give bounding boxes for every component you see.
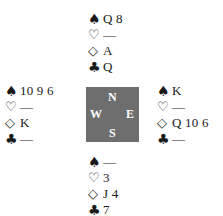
- south-hearts-cards: 3: [103, 170, 110, 186]
- south-spades-cards: —: [103, 154, 116, 170]
- west-hearts-row: ♡ —: [5, 99, 54, 115]
- heart-icon: ♡: [88, 27, 103, 43]
- east-clubs-cards: —: [172, 131, 185, 147]
- club-icon: ♣: [5, 131, 20, 147]
- north-hand: ♠ Q 8 ♡ — ◇ A ♣ Q: [88, 11, 123, 75]
- south-diamonds-cards: J 4: [103, 186, 118, 202]
- east-hearts-cards: —: [172, 99, 185, 115]
- heart-icon: ♡: [157, 99, 172, 115]
- north-diamonds-cards: A: [103, 43, 113, 59]
- south-hand: ♠ — ♡ 3 ◇ J 4 ♣ 7: [88, 154, 118, 216]
- west-clubs-row: ♣ —: [5, 131, 54, 147]
- compass-box: N W E S: [86, 87, 139, 142]
- west-hearts-cards: —: [20, 99, 33, 115]
- west-spades-row: ♠ 10 9 6: [5, 83, 54, 99]
- north-spades-row: ♠ Q 8: [88, 11, 123, 27]
- north-clubs-row: ♣ Q: [88, 59, 123, 75]
- spade-icon: ♠: [157, 83, 172, 99]
- south-hearts-row: ♡ 3: [88, 170, 118, 186]
- heart-icon: ♡: [88, 170, 103, 186]
- south-spades-row: ♠ —: [88, 154, 118, 170]
- east-diamonds-cards: Q 10 6: [172, 115, 209, 131]
- diamond-icon: ◇: [157, 115, 172, 131]
- spade-icon: ♠: [88, 154, 103, 170]
- west-diamonds-row: ◇ K: [5, 115, 54, 131]
- club-icon: ♣: [157, 131, 172, 147]
- east-hand: ♠ K ♡ — ◇ Q 10 6 ♣ —: [157, 83, 209, 147]
- spade-icon: ♠: [88, 11, 103, 27]
- west-hand: ♠ 10 9 6 ♡ — ◇ K ♣ —: [5, 83, 54, 147]
- south-diamonds-row: ◇ J 4: [88, 186, 118, 202]
- club-icon: ♣: [88, 59, 103, 75]
- north-clubs-cards: Q: [103, 59, 113, 75]
- compass-east-label: E: [126, 108, 134, 120]
- east-hearts-row: ♡ —: [157, 99, 209, 115]
- north-hearts-row: ♡ —: [88, 27, 123, 43]
- east-diamonds-row: ◇ Q 10 6: [157, 115, 209, 131]
- west-diamonds-cards: K: [20, 115, 30, 131]
- west-clubs-cards: —: [20, 131, 33, 147]
- compass-west-label: W: [90, 108, 102, 120]
- south-clubs-cards: 7: [103, 202, 110, 216]
- north-hearts-cards: —: [103, 27, 116, 43]
- south-clubs-row: ♣ 7: [88, 202, 118, 216]
- diamond-icon: ◇: [88, 186, 103, 202]
- compass-south-label: S: [109, 127, 116, 139]
- north-spades-cards: Q 8: [103, 11, 123, 27]
- compass-north-label: N: [108, 91, 117, 103]
- east-clubs-row: ♣ —: [157, 131, 209, 147]
- heart-icon: ♡: [5, 99, 20, 115]
- north-diamonds-row: ◇ A: [88, 43, 123, 59]
- diamond-icon: ◇: [5, 115, 20, 131]
- spade-icon: ♠: [5, 83, 20, 99]
- club-icon: ♣: [88, 202, 103, 216]
- west-spades-cards: 10 9 6: [20, 83, 54, 99]
- diamond-icon: ◇: [88, 43, 103, 59]
- east-spades-row: ♠ K: [157, 83, 209, 99]
- east-spades-cards: K: [172, 83, 182, 99]
